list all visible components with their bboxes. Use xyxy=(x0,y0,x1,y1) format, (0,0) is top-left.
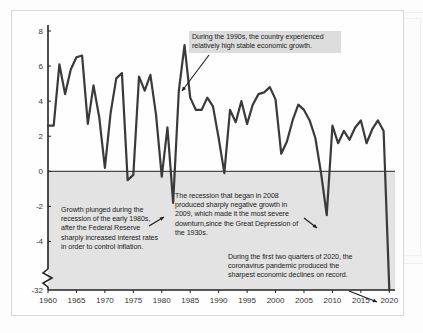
x-tick-label-1975: 1975 xyxy=(124,296,142,305)
annotation-2020-pandemic: During the first two quarters of 2020, t… xyxy=(225,251,362,283)
y-tick-label--4: -4 xyxy=(36,237,44,246)
y-tick-label-4: 4 xyxy=(39,97,44,106)
x-tick-label-2015: 2015 xyxy=(352,296,370,305)
x-tick-label-2000: 2000 xyxy=(267,296,285,305)
y-tick-label-0: 0 xyxy=(39,167,44,176)
y-tick-label-8: 8 xyxy=(39,27,44,36)
x-tick-label-1970: 1970 xyxy=(96,296,114,305)
y-tick-label-6: 6 xyxy=(39,62,44,71)
x-tick-label-2005: 2005 xyxy=(295,296,313,305)
annotation-1990s-growth: During the 1990s, the country experience… xyxy=(189,31,341,53)
right-side-panel-inner xyxy=(403,18,421,256)
x-tick-label-1965: 1965 xyxy=(68,296,86,305)
x-tick-label-1960: 1960 xyxy=(39,296,57,305)
x-tick-label-1980: 1980 xyxy=(153,296,171,305)
annotation-1980s-recession: Growth plunged during the recession of t… xyxy=(58,204,162,254)
annotation-2008-recession: The recession that began in 2008 produce… xyxy=(172,190,305,240)
x-tick-label-2020: 2020 xyxy=(380,296,398,305)
x-tick-label-1995: 1995 xyxy=(238,296,256,305)
y-tick-label--32: -32 xyxy=(31,286,43,295)
y-tick-label-2: 2 xyxy=(39,132,44,141)
chart-page: 86420-2-4-321960196519701975198019851990… xyxy=(0,0,423,333)
x-tick-label-1985: 1985 xyxy=(181,296,199,305)
x-tick-label-1990: 1990 xyxy=(210,296,228,305)
y-tick-label--2: -2 xyxy=(36,202,44,211)
x-tick-label-2010: 2010 xyxy=(324,296,342,305)
